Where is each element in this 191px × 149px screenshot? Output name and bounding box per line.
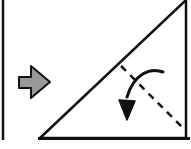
curved-fold-arrow-icon: [119, 70, 163, 120]
folded-triangle: [38, 0, 190, 139]
fold-line-dashed: [121, 66, 185, 130]
right-arrow-icon: [19, 66, 50, 98]
origami-diagram: [0, 0, 191, 149]
